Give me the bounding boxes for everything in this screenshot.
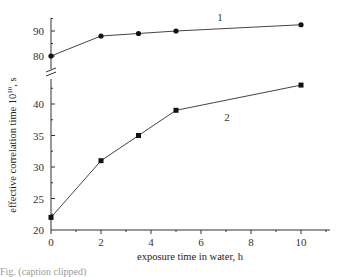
y-tick-label: 25: [33, 193, 45, 205]
x-tick-label: 10: [296, 236, 308, 248]
y-tick-label: 90: [33, 25, 45, 37]
x-ticks: 0 2 4 6 8 10: [48, 230, 326, 248]
x-tick-label: 0: [48, 236, 54, 248]
y-tick-label: 20: [33, 224, 45, 236]
x-tick-label: 2: [98, 236, 104, 248]
series-1-label: 1: [217, 11, 223, 23]
chart: 90 80 40 35 30 25 20 0 2 4 6 8: [0, 0, 338, 277]
y-tick-label: 80: [33, 50, 45, 62]
x-tick-label: 4: [148, 236, 154, 248]
axis-break-icon: [46, 68, 56, 76]
y-axis-label: effective correlation time 1010, s: [6, 77, 18, 212]
x-tick-label: 8: [248, 236, 254, 248]
x-axis-label: exposure time in water, h: [137, 251, 244, 262]
lower-y-ticks: 40 35 30 25 20: [33, 88, 55, 236]
series-2: 2: [49, 83, 304, 220]
y-tick-label: 30: [33, 161, 45, 173]
x-tick-label: 6: [198, 236, 204, 248]
figure-caption: Fig. (caption clipped): [0, 266, 86, 277]
series-1: 1: [48, 11, 303, 59]
series-2-label: 2: [224, 111, 230, 123]
y-tick-label: 40: [33, 98, 45, 110]
y-tick-label: 35: [33, 130, 45, 142]
